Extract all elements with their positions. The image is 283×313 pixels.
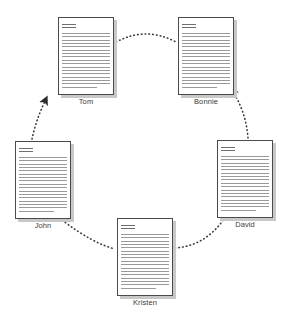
node-label-john: John <box>35 221 52 230</box>
document-body-line <box>221 196 269 197</box>
document-body-line <box>62 77 110 78</box>
document-body-line <box>182 60 230 61</box>
document-text-lines <box>19 146 67 214</box>
document-body-line <box>19 191 67 192</box>
document-body-line <box>19 184 67 185</box>
document-body-line <box>182 33 230 34</box>
document-body-line <box>182 53 230 54</box>
document-body-line <box>62 53 110 54</box>
node-label-david: David <box>235 220 255 229</box>
document-body-line <box>182 67 230 68</box>
node-bonnie[interactable] <box>178 17 234 95</box>
node-label-kristen: Kristen <box>133 298 157 307</box>
document-body-line <box>121 274 169 275</box>
document-body-line <box>19 211 54 212</box>
document-header-line <box>62 27 76 28</box>
document-text-lines <box>182 22 230 90</box>
document-body-line <box>221 183 269 184</box>
document-body-line <box>121 271 169 272</box>
document-body-line <box>182 83 230 84</box>
document-body-line <box>19 167 67 168</box>
document-body-line <box>221 193 269 194</box>
document-body-line <box>182 43 230 44</box>
document-text-lines <box>221 145 269 213</box>
document-body-line <box>221 176 269 177</box>
node-label-tom: Tom <box>79 97 93 106</box>
document-body-line <box>221 173 269 174</box>
document-body-line <box>19 177 67 178</box>
edge-john-to-kristen <box>62 220 115 249</box>
document-body-line <box>121 251 169 252</box>
document-body-line <box>182 50 230 51</box>
document-header-line <box>121 228 135 229</box>
edge-david-to-bonnie <box>233 92 248 138</box>
edge-john-to-tom <box>32 101 45 139</box>
document-body-line <box>62 87 97 88</box>
document-body-line <box>182 56 230 57</box>
document-text-lines <box>121 223 169 291</box>
document-body-line <box>121 234 169 235</box>
diagram-canvas: TomBonnieDavidKristenJohn <box>0 0 283 313</box>
document-body-line <box>221 179 269 180</box>
document-body-line <box>182 40 230 41</box>
document-body-line <box>62 73 110 74</box>
document-header-line <box>19 148 33 149</box>
document-icon[interactable] <box>58 17 114 95</box>
document-body-line <box>121 257 169 258</box>
node-tom[interactable] <box>58 17 114 95</box>
document-body-line <box>221 186 269 187</box>
document-header-line <box>62 24 76 25</box>
edge-kristen-to-david <box>175 219 224 248</box>
document-body-line <box>19 204 67 205</box>
document-body-line <box>19 197 67 198</box>
document-body-line <box>62 56 110 57</box>
document-body-line <box>221 159 269 160</box>
edge-tom-to-bonnie <box>116 34 176 42</box>
document-body-line <box>62 50 110 51</box>
document-body-line <box>62 46 110 47</box>
document-body-line <box>221 200 269 201</box>
document-body-line <box>182 87 217 88</box>
document-body-line <box>19 201 67 202</box>
document-body-line <box>221 169 269 170</box>
document-body-line <box>121 264 169 265</box>
document-body-line <box>121 237 169 238</box>
document-body-line <box>19 187 67 188</box>
document-icon[interactable] <box>217 140 273 218</box>
document-body-line <box>182 80 230 81</box>
document-body-line <box>19 170 67 171</box>
document-body-line <box>19 174 67 175</box>
document-body-line <box>221 203 269 204</box>
document-body-line <box>62 70 110 71</box>
document-icon[interactable] <box>15 141 71 219</box>
node-john[interactable] <box>15 141 71 219</box>
document-body-line <box>121 268 169 269</box>
node-david[interactable] <box>217 140 273 218</box>
document-body-line <box>221 166 269 167</box>
document-body-line <box>62 83 110 84</box>
document-body-line <box>62 67 110 68</box>
document-body-line <box>19 160 67 161</box>
document-body-line <box>121 247 169 248</box>
document-header-line <box>221 147 235 148</box>
document-header-line <box>19 151 33 152</box>
document-header-line <box>121 225 135 226</box>
document-body-line <box>19 207 67 208</box>
document-body-line <box>62 40 110 41</box>
document-body-line <box>182 73 230 74</box>
document-body-line <box>121 284 169 285</box>
document-body-line <box>62 43 110 44</box>
document-body-line <box>121 288 156 289</box>
document-body-line <box>121 244 169 245</box>
node-kristen[interactable] <box>117 218 173 296</box>
document-body-line <box>62 60 110 61</box>
document-body-line <box>19 157 67 158</box>
document-body-line <box>182 46 230 47</box>
document-body-line <box>62 33 110 34</box>
document-body-line <box>19 194 67 195</box>
document-header-line <box>182 24 196 25</box>
document-body-line <box>182 36 230 37</box>
document-icon[interactable] <box>178 17 234 95</box>
document-body-line <box>221 190 269 191</box>
document-icon[interactable] <box>117 218 173 296</box>
